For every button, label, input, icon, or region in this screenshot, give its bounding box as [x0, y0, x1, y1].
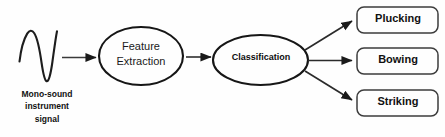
- node-output-striking[interactable]: [357, 90, 438, 116]
- connector-classification-to-striking: [305, 71, 352, 100]
- diagram-canvas: [0, 0, 445, 137]
- node-feature-extraction[interactable]: [99, 27, 183, 85]
- connector-classification-to-plucking: [305, 21, 352, 50]
- node-classification[interactable]: [213, 35, 308, 85]
- flowchart-diagram: Feature Extraction Classification Mono-s…: [0, 0, 445, 137]
- node-output-plucking[interactable]: [357, 7, 438, 33]
- waveform-icon: [20, 31, 58, 82]
- node-output-bowing[interactable]: [357, 48, 438, 74]
